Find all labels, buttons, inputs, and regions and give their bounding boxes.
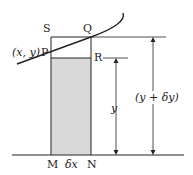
label-p-coords: (x, y) xyxy=(12,46,40,59)
label-s: S xyxy=(43,22,51,35)
y-arrow-up-icon xyxy=(114,58,119,63)
label-dx: δx xyxy=(65,158,79,171)
label-m: M xyxy=(47,158,58,171)
label-n: N xyxy=(87,158,97,171)
y-plus-dy-arrow-down-icon xyxy=(151,150,156,155)
shaded-strip xyxy=(51,58,91,155)
label-y-plus-dy: (y + δy) xyxy=(135,91,179,104)
y-plus-dy-arrow-up-icon xyxy=(151,37,156,42)
label-y: y xyxy=(110,102,118,115)
strip-diagram: S Q (x, y) P R y (y + δy) M δx N xyxy=(0,0,193,175)
diagram-canvas: S Q (x, y) P R y (y + δy) M δx N xyxy=(0,0,193,175)
label-r: R xyxy=(94,51,103,64)
label-p: P xyxy=(41,46,49,59)
y-arrow-down-icon xyxy=(114,150,119,155)
label-q: Q xyxy=(83,22,92,35)
